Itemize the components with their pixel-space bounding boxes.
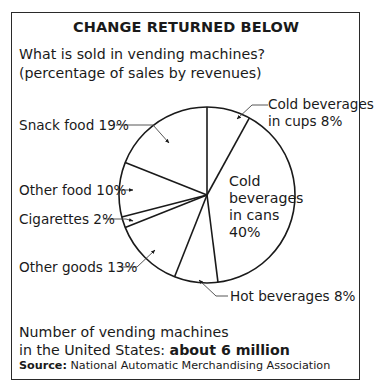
label-cold-cans-line1: Cold — [229, 173, 304, 190]
source-label: Source: — [19, 359, 67, 372]
label-cold-cups: Cold beverages in cups 8% — [268, 96, 374, 130]
machine-count-line2: in the United States: about 6 million — [19, 341, 290, 359]
machine-count-prefix: in the United States: — [19, 342, 170, 358]
label-other-goods: Other goods 13% — [19, 259, 137, 276]
label-cold-cans-line3: in cans — [229, 207, 304, 224]
label-cold-cups-line1: Cold beverages — [268, 96, 374, 113]
label-hot-beverages: Hot beverages 8% — [230, 288, 355, 305]
label-other-food: Other food 10% — [19, 182, 127, 199]
machine-count-line1: Number of vending machines — [19, 323, 290, 341]
source-note: Source: National Automatic Merchandising… — [19, 359, 330, 372]
label-cold-cups-line2: in cups 8% — [268, 113, 374, 130]
label-cigarettes: Cigarettes 2% — [19, 211, 115, 228]
label-cold-cans: Cold beverages in cans 40% — [229, 173, 304, 241]
machine-count-value: about 6 million — [170, 342, 290, 358]
label-cold-cans-line4: 40% — [229, 224, 304, 241]
label-snack-food: Snack food 19% — [19, 117, 129, 134]
source-text: National Automatic Merchandising Associa… — [67, 359, 330, 372]
machine-count-note: Number of vending machines in the United… — [19, 323, 290, 359]
label-cold-cans-line2: beverages — [229, 190, 304, 207]
